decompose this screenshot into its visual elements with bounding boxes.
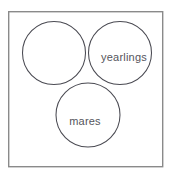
figure-frame — [9, 12, 163, 167]
venn-diagram-canvas: yearlings mares — [0, 0, 171, 179]
venn-label-yearlings: yearlings — [101, 51, 147, 63]
venn-label-mares: mares — [69, 115, 101, 127]
venn-diagram-figure: yearlings mares — [0, 0, 171, 179]
